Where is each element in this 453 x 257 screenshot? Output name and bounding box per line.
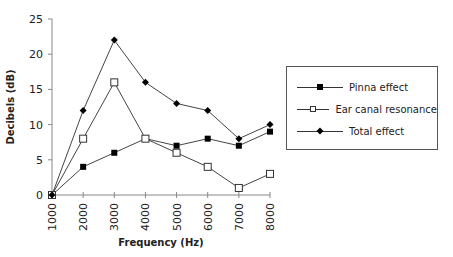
- y-tick-label: 20: [29, 48, 43, 61]
- data-point: [142, 79, 149, 86]
- x-tick-label: 3000: [108, 203, 121, 231]
- axes: 0510152025100020003000400050006000700080…: [29, 13, 277, 231]
- y-tick-label: 5: [36, 154, 43, 167]
- x-tick-label: 2000: [77, 203, 90, 231]
- data-point: [142, 135, 149, 142]
- series-line: [52, 40, 270, 195]
- diamond-marker-icon: [316, 127, 323, 134]
- data-point: [174, 143, 180, 149]
- data-point: [111, 37, 118, 44]
- y-axis-title: Decibels (dB): [5, 69, 16, 144]
- data-point: [80, 135, 87, 142]
- x-tick-label: 4000: [139, 203, 152, 231]
- legend-label: Pinna effect: [349, 82, 408, 93]
- x-tick-label: 7000: [233, 203, 246, 231]
- legend-item-ear-canal-resonance: Ear canal resonance: [287, 101, 437, 117]
- x-axis-title: Frequency (Hz): [118, 237, 203, 248]
- legend-label: Total effect: [349, 126, 404, 137]
- data-point: [205, 136, 211, 142]
- y-tick-label: 25: [29, 13, 43, 26]
- y-tick-label: 15: [29, 83, 43, 96]
- data-point: [111, 79, 118, 86]
- legend-item-total-effect: Total effect: [287, 123, 437, 139]
- data-point: [204, 163, 211, 170]
- series-group: [49, 37, 274, 199]
- legend-item-pinna-effect: Pinna effect: [287, 79, 437, 95]
- legend-label: Ear canal resonance: [335, 104, 437, 115]
- y-tick-label: 10: [29, 119, 43, 132]
- x-tick-label: 6000: [202, 203, 215, 231]
- data-point: [80, 107, 87, 114]
- legend: Pinna effect Ear canal resonance Total e…: [286, 66, 438, 150]
- data-point: [80, 164, 86, 170]
- filled-square-marker-icon: [317, 84, 323, 90]
- data-point: [173, 100, 180, 107]
- series-total-effect: [49, 37, 274, 199]
- legend-line: [297, 123, 343, 139]
- y-tick-label: 0: [36, 189, 43, 202]
- data-point: [235, 184, 242, 191]
- data-point: [267, 170, 274, 177]
- data-point: [267, 121, 274, 128]
- data-point: [111, 150, 117, 156]
- x-tick-label: 8000: [264, 203, 277, 231]
- legend-line: [297, 79, 343, 95]
- x-tick-label: 5000: [171, 203, 184, 231]
- data-point: [173, 149, 180, 156]
- legend-line: [297, 101, 329, 117]
- x-tick-label: 1000: [46, 203, 59, 231]
- data-point: [267, 129, 273, 135]
- open-square-marker-icon: [310, 106, 316, 112]
- data-point: [236, 143, 242, 149]
